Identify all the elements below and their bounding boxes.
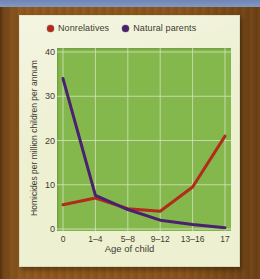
legend-dot-purple-icon [122, 25, 129, 32]
legend-item-nonrelatives: Nonrelatives [47, 23, 109, 33]
y-tick-label: 40 [31, 47, 55, 57]
chart-figure: Nonrelatives Natural parents Homicides p… [0, 0, 260, 279]
y-tick-label: 20 [31, 136, 55, 146]
legend-label-nonrelatives: Nonrelatives [58, 23, 109, 33]
plot-area [57, 48, 231, 231]
chart-card: Nonrelatives Natural parents Homicides p… [19, 15, 240, 267]
chart-svg [57, 48, 231, 231]
sky-strip [0, 0, 260, 7]
legend-dot-red-icon [47, 25, 54, 32]
legend-label-natural-parents: Natural parents [133, 23, 196, 33]
y-tick-label: 10 [31, 180, 55, 190]
legend-item-natural-parents: Natural parents [122, 23, 196, 33]
series-line-0 [63, 136, 225, 211]
y-tick-label: 0 [31, 224, 55, 234]
chart-legend: Nonrelatives Natural parents [47, 20, 237, 36]
series-line-1 [63, 79, 225, 228]
plot-area-wrapper: 010203040 01–45–89–1213–1617 [57, 48, 231, 231]
x-axis-title: Age of child [19, 243, 240, 254]
y-tick-label: 30 [31, 91, 55, 101]
